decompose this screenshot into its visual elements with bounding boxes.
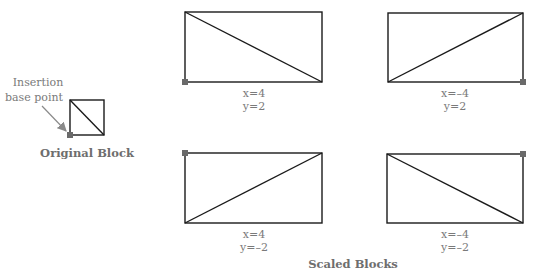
- scaled-block-1: x=4 y=2: [182, 12, 322, 113]
- y-scale-label: y=–2: [440, 241, 469, 254]
- scaled-blocks-diagram: Insertion base point Original Block x=4 …: [0, 0, 536, 280]
- insertion-point-marker: [182, 79, 188, 85]
- original-block-caption: Original Block: [40, 146, 135, 160]
- callout-arrow-icon: [42, 106, 66, 131]
- insertion-point-marker: [182, 150, 188, 156]
- scaled-block-4: x=–4 y=–2: [387, 151, 526, 254]
- original-block-diagonal: [70, 100, 104, 135]
- x-scale-label: x=4: [243, 228, 265, 241]
- block-diagonal: [387, 154, 523, 223]
- x-scale-label: x=–4: [441, 228, 469, 241]
- scaled-blocks-caption: Scaled Blocks: [308, 257, 398, 271]
- y-scale-label: y=2: [242, 100, 265, 113]
- block-diagonal: [185, 153, 322, 223]
- insertion-point-marker: [67, 132, 73, 138]
- callout-line-1: Insertion: [13, 76, 64, 89]
- callout-line-2: base point: [5, 91, 64, 104]
- insertion-point-marker: [520, 79, 526, 85]
- insertion-point-marker: [520, 151, 526, 157]
- y-scale-label: y=–2: [239, 241, 268, 254]
- original-block: Insertion base point Original Block: [5, 76, 135, 160]
- y-scale-label: y=2: [443, 100, 466, 113]
- block-diagonal: [185, 12, 322, 82]
- scaled-block-2: x=–4 y=2: [388, 13, 526, 113]
- block-diagonal: [388, 13, 523, 82]
- x-scale-label: x=4: [243, 87, 265, 100]
- scaled-block-3: x=4 y=–2: [182, 150, 322, 254]
- x-scale-label: x=–4: [441, 87, 469, 100]
